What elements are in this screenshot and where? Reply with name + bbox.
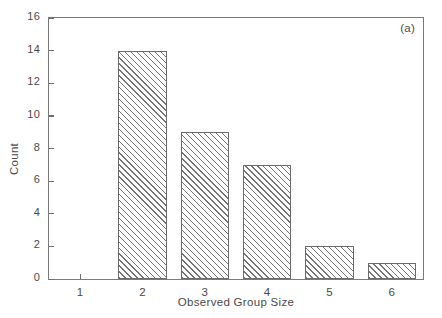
y-tick-mark	[49, 83, 54, 84]
y-tick-label: 6	[34, 173, 40, 185]
y-tick-mark	[49, 115, 54, 116]
y-tick-mark	[49, 246, 54, 247]
y-tick-label: 0	[34, 271, 40, 283]
y-tick-label: 4	[34, 206, 40, 218]
y-tick-mark	[49, 148, 54, 149]
y-tick-mark	[49, 181, 54, 182]
x-axis-title: Observed Group Size	[48, 296, 424, 308]
panel-label: (a)	[400, 22, 415, 34]
histogram-figure: (a) 0246810121416 123456 Count Observed …	[0, 0, 442, 318]
bar	[118, 51, 167, 279]
y-tick-label: 2	[34, 238, 40, 250]
bar	[368, 263, 417, 279]
y-tick-label: 16	[27, 10, 40, 22]
bar	[305, 246, 354, 279]
y-tick-mark	[49, 18, 54, 19]
y-tick-mark	[49, 279, 54, 280]
y-tick-mark	[49, 213, 54, 214]
bar	[243, 165, 292, 279]
y-tick-label: 10	[27, 108, 40, 120]
x-tick-mark	[80, 274, 81, 279]
bar	[181, 132, 230, 279]
y-tick-mark	[49, 50, 54, 51]
plot-area: (a) 0246810121416 123456	[48, 17, 424, 280]
y-axis-title: Count	[8, 143, 20, 175]
y-tick-label: 12	[27, 75, 40, 87]
y-tick-label: 14	[27, 43, 40, 55]
y-tick-label: 8	[34, 141, 40, 153]
